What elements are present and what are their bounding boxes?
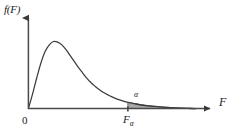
f-distribution-figure: f(F) F 0 Fα α: [0, 0, 236, 139]
origin-label: 0: [22, 115, 28, 126]
density-curve-stroke: [28, 41, 195, 108]
tail-area-alpha-label: α: [134, 91, 138, 99]
chart-canvas: [0, 0, 236, 139]
x-axis-label: F: [219, 96, 226, 108]
critical-value-label: Fα: [123, 114, 134, 128]
y-axis-label: f(F): [4, 4, 20, 15]
critical-value-subscript: α: [130, 119, 134, 128]
critical-value-symbol: F: [123, 113, 130, 125]
